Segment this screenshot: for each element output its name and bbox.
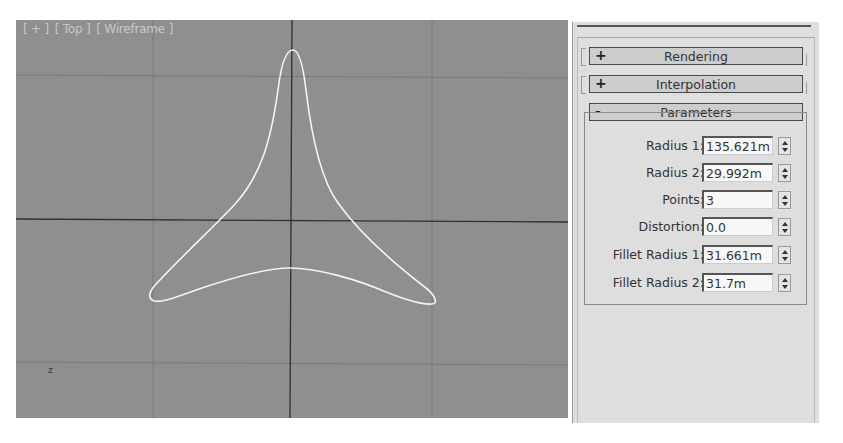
param-radius-1: Radius 1: [585,136,808,156]
viewport-view-top[interactable]: [ Top ] [55,22,91,36]
viewport-canvas[interactable] [16,20,568,418]
rollout-title: Interpolation [590,77,802,92]
spinner-up-icon[interactable] [782,278,788,282]
spinner-down-icon[interactable] [782,257,788,261]
axis-tripod-z: z [48,365,53,375]
radius-2-field[interactable] [702,163,773,182]
rollout-bracket [806,82,807,94]
param-label: Radius 2: [646,165,704,180]
rollout-interpolation[interactable]: + Interpolation [589,75,803,93]
spinner-up-icon[interactable] [782,141,788,145]
param-fillet-radius-2: Fillet Radius 2: [585,273,808,293]
fillet-radius-2-field[interactable] [702,273,773,292]
radius-2-spinner[interactable] [778,164,791,182]
param-distortion: Distortion: [585,217,808,237]
fillet-radius-1-field[interactable] [702,245,773,264]
command-panel: + Rendering + Interpolation - Parameters… [572,22,819,423]
fillet-radius-1-spinner[interactable] [778,246,791,264]
points-field[interactable] [702,190,773,209]
top-viewport[interactable]: [ + ] [ Top ] [ Wireframe ] z [16,20,568,418]
spinner-down-icon[interactable] [782,175,788,179]
spinner-down-icon[interactable] [782,148,788,152]
spinner-up-icon[interactable] [782,168,788,172]
fillet-radius-2-spinner[interactable] [778,274,791,292]
star-spline [150,50,436,304]
rollout-rendering[interactable]: + Rendering [589,47,803,65]
panel-divider [577,25,811,27]
spinner-up-icon[interactable] [782,195,788,199]
param-points: Points: [585,190,808,210]
viewport-shading-wireframe[interactable]: [ Wireframe ] [96,22,173,36]
rollout-bracket [581,48,586,66]
param-label: Radius 1: [646,138,704,153]
radius-1-field[interactable] [702,136,773,155]
param-fillet-radius-1: Fillet Radius 1: [585,245,808,265]
viewport-label[interactable]: [ + ] [ Top ] [ Wireframe ] [23,22,175,36]
distortion-spinner[interactable] [778,218,791,236]
param-label: Fillet Radius 2: [613,275,704,290]
rollout-bracket [806,54,807,66]
distortion-field[interactable] [702,217,773,236]
param-label: Points: [662,192,704,207]
spinner-down-icon[interactable] [782,285,788,289]
spinner-up-icon[interactable] [782,250,788,254]
points-spinner[interactable] [778,191,791,209]
world-axes [16,20,568,418]
spinner-down-icon[interactable] [782,229,788,233]
parameters-group: Radius 1: Radius 2: Points: Distortion: … [584,112,807,305]
viewport-menu-plus[interactable]: [ + ] [23,22,49,36]
spinner-up-icon[interactable] [782,222,788,226]
rollout-title: Rendering [590,49,802,64]
param-radius-2: Radius 2: [585,163,808,183]
rollout-bracket [581,76,586,94]
spinner-down-icon[interactable] [782,202,788,206]
param-label: Distortion: [639,219,704,234]
radius-1-spinner[interactable] [778,137,791,155]
param-label: Fillet Radius 1: [613,247,704,262]
